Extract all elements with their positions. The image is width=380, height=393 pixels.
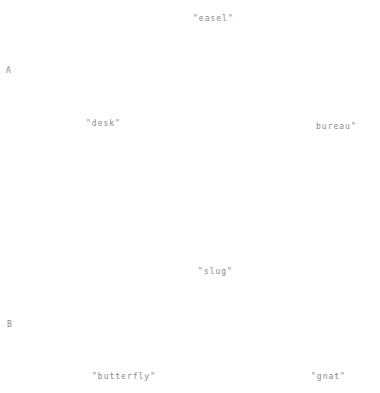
group-label-b: B: [7, 320, 13, 330]
option-word-b-left[interactable]: "butterfly": [92, 372, 156, 382]
group-label-a: A: [6, 66, 12, 76]
option-word-a-left[interactable]: "desk": [86, 119, 121, 129]
prompt-word-a: "easel": [193, 14, 234, 24]
prompt-word-b: "slug": [198, 267, 233, 277]
option-word-b-right[interactable]: "gnat": [311, 372, 346, 382]
option-word-a-right[interactable]: bureau": [316, 122, 357, 132]
